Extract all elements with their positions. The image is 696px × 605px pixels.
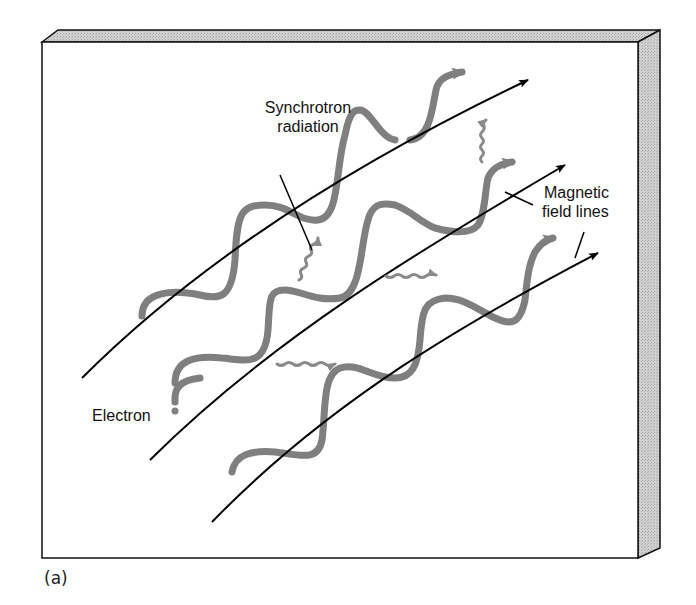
magnetic-field-lines-label: Magnetic field lines [542, 183, 634, 221]
figure-caption: (a) [44, 568, 68, 588]
synchrotron-diagram [0, 0, 696, 605]
synchrotron-label-line1: Synchrotron [258, 98, 358, 117]
magnetic-label-line2: field lines [542, 202, 634, 221]
synchrotron-radiation-label: Synchrotron radiation [258, 98, 358, 136]
electron-label: Electron [92, 406, 151, 425]
panel-top-edge [42, 30, 660, 42]
panel-right-edge [638, 30, 660, 558]
magnetic-label-line1: Magnetic [542, 183, 634, 202]
electron-dot [172, 408, 179, 415]
synchrotron-label-line2: radiation [258, 117, 358, 136]
